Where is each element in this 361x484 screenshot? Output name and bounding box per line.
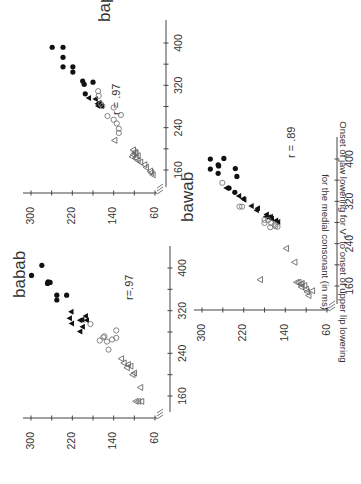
- y-tick-label: 60: [148, 432, 160, 444]
- figure: 16024032040060140220300bapabr = .97 1602…: [0, 0, 361, 484]
- open-circle-marker: [88, 321, 93, 326]
- x-tick-label: 320: [172, 76, 184, 94]
- panel-title: bawab: [178, 172, 197, 222]
- y-tick-label: 220: [65, 432, 77, 450]
- y-axis-title-line1: Onset of jaw lowering for V1 to onset of…: [338, 121, 350, 362]
- filled-circle-marker: [70, 70, 75, 75]
- y-tick-label: 140: [106, 207, 118, 225]
- y-tick-label: 60: [320, 324, 332, 336]
- filled-circle-marker: [48, 280, 53, 285]
- y-tick-label: 220: [236, 324, 248, 342]
- filled-circle-marker: [50, 45, 55, 50]
- panel-title: babab: [10, 251, 29, 298]
- y-tick-label: 140: [278, 324, 290, 342]
- filled-triangle-marker: [67, 315, 72, 321]
- panel-babab: 16024032040060140220300bababr=.97: [10, 246, 188, 450]
- filled-circle-marker: [216, 163, 221, 168]
- x-tick-label: 160: [176, 387, 188, 405]
- open-triangle-marker: [292, 259, 297, 265]
- filled-circle-marker: [54, 293, 59, 298]
- open-circle-marker: [262, 220, 267, 225]
- open-circle-marker: [220, 180, 225, 185]
- open-triangle-marker: [137, 384, 142, 390]
- y-tick-label: 60: [148, 207, 160, 219]
- filled-triangle-marker: [248, 203, 253, 209]
- filled-triangle-marker: [68, 309, 73, 315]
- x-tick-label: 400: [176, 259, 188, 277]
- y-tick-label: 140: [106, 432, 118, 450]
- filled-triangle-marker: [92, 96, 97, 102]
- open-circle-marker: [106, 347, 111, 352]
- filled-circle-marker: [216, 171, 221, 176]
- open-circle-marker: [97, 338, 102, 343]
- correlation-label: r = .97: [110, 84, 122, 116]
- axis-break-mark: [157, 409, 163, 419]
- y-tick-label: 300: [195, 324, 207, 342]
- y-tick-label: 300: [24, 432, 36, 450]
- filled-triangle-marker: [223, 185, 228, 191]
- filled-circle-marker: [208, 166, 213, 171]
- x-tick-label: 240: [176, 344, 188, 362]
- filled-triangle-marker: [77, 328, 82, 334]
- open-triangle-marker: [118, 356, 123, 362]
- open-circle-marker: [114, 328, 119, 333]
- open-circle-marker: [105, 113, 110, 118]
- filled-circle-marker: [83, 91, 88, 96]
- filled-circle-marker: [60, 55, 65, 60]
- filled-circle-marker: [232, 190, 237, 195]
- open-triangle-marker: [257, 277, 262, 283]
- filled-circle-marker: [90, 80, 95, 85]
- panel-title: bapab: [95, 0, 114, 22]
- correlation-label: r=.97: [123, 275, 135, 300]
- y-tick-label: 220: [65, 207, 77, 225]
- filled-circle-marker: [39, 263, 44, 268]
- axis-break-mark: [157, 184, 163, 194]
- x-tick-label: 320: [176, 302, 188, 320]
- filled-circle-marker: [64, 293, 69, 298]
- filled-circle-marker: [54, 297, 59, 302]
- open-triangle-marker: [112, 137, 117, 143]
- open-circle-marker: [114, 121, 119, 126]
- filled-circle-marker: [29, 273, 34, 278]
- filled-circle-marker: [233, 166, 238, 171]
- y-tick-label: 300: [24, 207, 36, 225]
- filled-circle-marker: [234, 174, 239, 179]
- filled-circle-marker: [70, 64, 75, 69]
- filled-triangle-marker: [69, 320, 74, 326]
- correlation-label: r = .89: [285, 127, 297, 159]
- filled-circle-marker: [82, 82, 87, 87]
- panel-bapab: 16024032040060140220300bapabr = .97: [23, 0, 184, 225]
- filled-circle-marker: [60, 64, 65, 69]
- open-circle-marker: [104, 339, 109, 344]
- open-triangle-marker: [283, 245, 288, 251]
- rotated-figure-group: 16024032040060140220300bapabr = .97 1602…: [10, 0, 355, 450]
- x-tick-label: 240: [172, 119, 184, 137]
- figure-svg: 16024032040060140220300bapabr = .97 1602…: [0, 0, 361, 484]
- filled-circle-marker: [60, 45, 65, 50]
- x-tick-label: 400: [172, 34, 184, 52]
- filled-circle-marker: [208, 156, 213, 161]
- y-axis-title-line2: for the medial consonant (in ms): [320, 174, 331, 310]
- filled-circle-marker: [221, 156, 226, 161]
